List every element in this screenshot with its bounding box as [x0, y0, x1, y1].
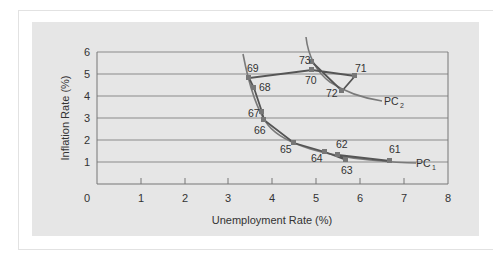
- y-tick: 4: [84, 90, 90, 102]
- y-tick: 1: [84, 156, 90, 168]
- y-axis-label: Inflation Rate (%): [59, 76, 71, 161]
- x-tick: 0: [84, 192, 90, 204]
- y-tick: 3: [84, 112, 90, 124]
- svg-text:1: 1: [432, 164, 436, 171]
- point-label-70: 70: [305, 74, 317, 86]
- point-label-71: 71: [355, 62, 367, 74]
- y-tick-labels: 6 5 4 3 2 1: [84, 46, 90, 168]
- point-label-68: 68: [259, 81, 271, 93]
- point-label-65: 65: [280, 143, 292, 155]
- svg-text:2: 2: [400, 102, 404, 109]
- x-tick: 3: [225, 192, 231, 204]
- point-label-69: 69: [247, 62, 259, 74]
- x-tick: 7: [401, 192, 407, 204]
- point-label-62: 62: [336, 138, 348, 150]
- svg-text:PC: PC: [384, 95, 399, 107]
- pc1-label: PC 1: [416, 157, 436, 171]
- point-label-73: 73: [299, 54, 311, 66]
- x-tick: 8: [445, 192, 451, 204]
- svg-text:PC: PC: [416, 157, 431, 169]
- data-markers: [246, 59, 392, 163]
- x-tick-labels: 0 1 2 3 4 5 6 7 8: [84, 192, 451, 204]
- point-label-63: 63: [341, 164, 353, 176]
- y-tick: 2: [84, 134, 90, 146]
- phillips-curve-chart: 6 5 4 3 2 1 0 1 2 3 4 5 6 7 8 Unemployme…: [0, 0, 493, 262]
- point-label-67: 67: [248, 107, 260, 119]
- x-tick: 4: [269, 192, 275, 204]
- x-tick: 5: [313, 192, 319, 204]
- x-tick: 1: [138, 192, 144, 204]
- x-tick: 6: [357, 192, 363, 204]
- pc2-label: PC 2: [384, 95, 404, 109]
- y-tick: 5: [84, 68, 90, 80]
- y-tick: 6: [84, 46, 90, 58]
- data-path: [249, 62, 390, 161]
- point-label-61: 61: [389, 143, 401, 155]
- x-tick: 2: [182, 192, 188, 204]
- point-label-72: 72: [326, 87, 338, 99]
- point-label-64: 64: [311, 152, 323, 164]
- x-axis-label: Unemployment Rate (%): [212, 214, 332, 226]
- x-tick-marks: [141, 178, 404, 184]
- point-label-66: 66: [254, 124, 266, 136]
